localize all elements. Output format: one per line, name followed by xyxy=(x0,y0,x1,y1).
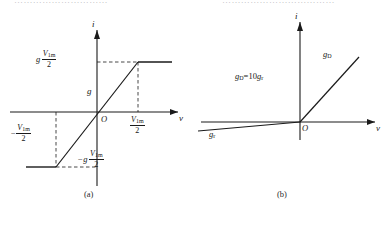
fraction-denominator: 2 xyxy=(42,60,57,69)
panel-a-plot xyxy=(0,0,196,229)
fraction-numerator: V1m xyxy=(130,116,145,126)
panel-a-x-positive-label: V1m 2 xyxy=(130,116,145,135)
relation-factor: 10 xyxy=(248,71,257,81)
curve-gd-line xyxy=(300,57,359,122)
y-axis-arrowhead xyxy=(297,22,303,31)
fraction-denominator: 2 xyxy=(89,160,104,169)
figure-container: ………………………… ……………………………… i v xyxy=(0,0,391,229)
fraction: V1m 2 xyxy=(42,50,57,69)
panel-a-x-negative-label: − V1m 2 xyxy=(11,124,31,143)
panel-b-gr-label: gr xyxy=(209,130,215,139)
fraction-numerator: V1m xyxy=(42,50,57,60)
panel-a-caption: (a) xyxy=(84,189,93,199)
panel-b-caption: (b) xyxy=(277,189,287,199)
panel-b-gd-label: gD xyxy=(323,50,332,59)
panel-b-relation-label: gD=10gr xyxy=(235,72,263,81)
panel-b-y-axis-label: i xyxy=(295,12,298,21)
panel-a-x-axis-label: v xyxy=(179,114,183,123)
x-axis-arrowhead xyxy=(367,119,375,125)
panel-b: i v O gD gr gD=10gr (b) xyxy=(195,0,391,229)
fraction: V1m 2 xyxy=(16,124,31,143)
relation-right-subscript: r xyxy=(261,75,263,81)
panel-b-plot xyxy=(195,0,391,229)
gd-subscript: D xyxy=(327,53,331,59)
fraction: V1m 2 xyxy=(130,116,145,135)
panel-b-origin-label: O xyxy=(302,124,308,133)
panel-a-y-negative-label: −g V1m 2 xyxy=(78,150,104,169)
y-axis-arrowhead xyxy=(94,30,100,39)
fraction: V1m 2 xyxy=(89,150,104,169)
panel-a-y-axis-label: i xyxy=(92,20,95,29)
panel-a-slope-label: g xyxy=(87,87,92,96)
fraction-denominator: 2 xyxy=(16,134,31,143)
panel-b-x-axis-label: v xyxy=(376,124,380,133)
x-axis-arrowhead xyxy=(170,109,178,115)
panel-a-y-positive-label: g V1m 2 xyxy=(36,50,56,69)
fraction-numerator: V1m xyxy=(16,124,31,134)
panel-a-origin-label: O xyxy=(101,115,107,124)
gr-subscript: r xyxy=(213,133,215,139)
fraction-numerator: V1m xyxy=(89,150,104,160)
fraction-denominator: 2 xyxy=(130,126,145,135)
panel-a: i v O g g V1m 2 −g V1m 2 V1m 2 xyxy=(0,0,196,229)
